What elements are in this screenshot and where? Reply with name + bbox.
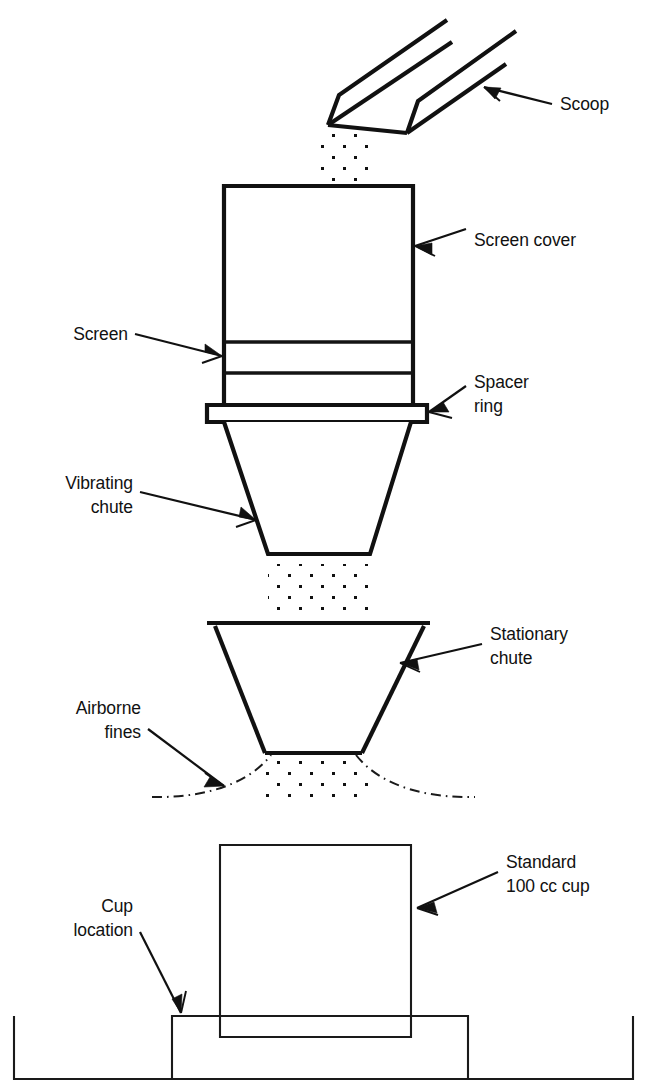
screen-cover-assembly — [224, 186, 413, 408]
standard-cup-callout: Standard 100 cc cup — [417, 852, 590, 915]
powder-stream-mid — [268, 564, 370, 614]
powder-stream-lower — [255, 755, 372, 800]
powder-dots-lower — [255, 755, 372, 800]
cup-location-callout: Cup location — [73, 896, 186, 1013]
scoop-near-rail — [407, 31, 516, 133]
spacer-ring-arrow-barb — [429, 412, 452, 418]
powder-dots-upper — [316, 133, 376, 187]
airborne-fines-label-line2: fines — [105, 722, 142, 742]
stationary-chute-callout: Stationary chute — [400, 624, 568, 672]
scoop-far-rail — [328, 20, 447, 125]
apparatus-diagram: Scoop Screen cover Screen — [0, 0, 647, 1088]
screen-cover-leader-line — [415, 229, 466, 246]
diagram-canvas: Scoop Screen cover Screen — [0, 0, 647, 1088]
vibrating-chute-callout: Vibrating chute — [65, 473, 256, 527]
vibrating-chute-label-line1: Vibrating — [65, 473, 133, 493]
airborne-fines-arc-right — [356, 755, 475, 797]
vibrating-chute-fill — [224, 422, 411, 554]
screen-arrow-barb — [202, 356, 222, 363]
standard-cup-label-line2: 100 cc cup — [506, 876, 590, 896]
standard-cup-assembly — [220, 845, 411, 1037]
vibrating-chute-arrow-barb — [236, 520, 256, 527]
stationary-chute-assembly — [207, 623, 430, 753]
stationary-chute-label-line1: Stationary — [490, 624, 568, 644]
scoop-label: Scoop — [560, 94, 609, 114]
spacer-ring-fill — [209, 407, 425, 421]
screen-arrowhead — [205, 344, 222, 356]
spacer-ring-assembly — [207, 405, 427, 422]
spacer-ring-callout: Spacer ring — [429, 372, 529, 418]
vibrating-chute-leader-line — [140, 492, 256, 520]
powder-dots-mid — [268, 564, 370, 614]
screen-cover-callout: Screen cover — [415, 229, 576, 256]
powder-stream-from-scoop — [316, 133, 376, 187]
screen-label: Screen — [73, 324, 128, 344]
standard-cup-leader-line — [417, 872, 498, 908]
screen-cover-fill — [226, 188, 411, 403]
cup-location-label-line1: Cup — [101, 896, 133, 916]
spacer-ring-label-line1: Spacer — [474, 372, 529, 392]
scoop-assembly — [328, 20, 516, 133]
scoop-front-lip — [328, 125, 407, 133]
airborne-fines-callout: Airborne fines — [76, 698, 224, 787]
spacer-ring-arrowhead — [429, 402, 449, 412]
standard-cup-fill — [222, 847, 409, 1035]
screen-cover-label: Screen cover — [474, 230, 576, 250]
vibrating-chute-label-line2: chute — [91, 497, 133, 517]
airborne-fines-label-line1: Airborne — [76, 698, 141, 718]
stationary-chute-label-line2: chute — [490, 648, 532, 668]
vibrating-chute-assembly — [224, 422, 411, 554]
standard-cup-label-line1: Standard — [506, 852, 576, 872]
spacer-ring-label-line2: ring — [474, 396, 503, 416]
cup-location-label-line2: location — [73, 920, 133, 940]
screen-callout: Screen — [73, 324, 222, 363]
scoop-callout: Scoop — [484, 87, 609, 114]
